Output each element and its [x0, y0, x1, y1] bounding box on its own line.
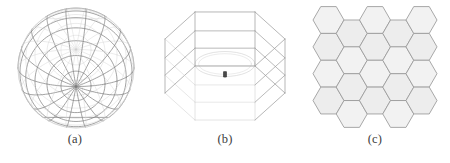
sphere-silhouette	[18, 8, 134, 128]
panel-c-caption: (c)	[368, 133, 382, 146]
hexagonal-tiling-svg	[300, 0, 450, 132]
wireframe-sphere	[0, 0, 150, 132]
panel-c: (c)	[300, 0, 450, 163]
prism-center-marker	[224, 72, 227, 77]
sphere-meridian-back	[76, 49, 120, 107]
hexagonal-prism-wireframe	[150, 0, 300, 132]
prism-bottom-edge	[255, 93, 285, 120]
sphere-parallel-back	[26, 9, 126, 108]
prism-bottom-edge	[165, 93, 195, 120]
sphere-meridian-back	[76, 41, 130, 49]
figure-root: (a) (b) (c)	[0, 0, 450, 163]
sphere-meridian-front	[76, 29, 120, 87]
panel-b-caption: (b)	[217, 133, 232, 146]
sphere-meridian-front	[32, 29, 76, 87]
hexagonal-tiling	[300, 0, 450, 132]
prism-inscribed-ellipse-inner	[199, 54, 252, 75]
sphere-meridian-back	[32, 49, 76, 107]
panel-a-caption: (a)	[68, 133, 82, 146]
sphere-meridian-front	[76, 87, 130, 95]
panel-a: (a)	[0, 0, 150, 163]
sphere-meridian-front	[22, 87, 76, 95]
wireframe-sphere-svg	[0, 0, 150, 132]
panel-b: (b)	[150, 0, 300, 163]
sphere-parallel-front	[26, 28, 126, 127]
hexagonal-prism-svg	[150, 0, 300, 132]
sphere-meridian-back	[22, 41, 76, 49]
